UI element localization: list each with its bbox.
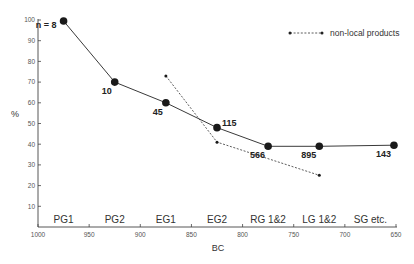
period-label: EG1: [156, 214, 176, 225]
legend-dot-icon: [289, 32, 292, 35]
data-point: [164, 74, 167, 77]
data-point-label: 895: [301, 150, 316, 160]
data-point: [315, 142, 323, 150]
y-tick-label: 20: [28, 182, 36, 189]
legend-dot-icon: [321, 32, 324, 35]
y-tick-label: 30: [28, 161, 36, 168]
series-all-products: n = 81045115566895143: [36, 17, 398, 160]
data-point: [162, 99, 170, 107]
legend: non-local products: [289, 28, 400, 38]
data-point-label: 45: [153, 107, 163, 117]
dashed-series-line: [166, 76, 319, 175]
x-tick-label: 850: [186, 231, 197, 238]
period-label: EG2: [207, 214, 227, 225]
data-point: [60, 17, 68, 25]
y-tick-label: 60: [28, 99, 36, 106]
data-point: [216, 141, 219, 144]
x-axis-title: BC: [212, 243, 225, 253]
line-chart: 1020304050607080901001000950900850800750…: [0, 0, 414, 264]
y-tick-label: 80: [28, 58, 36, 65]
data-point-label: 143: [376, 149, 391, 159]
axes: 1020304050607080901001000950900850800750…: [24, 16, 402, 238]
series: n = 81045115566895143: [36, 17, 398, 177]
data-point-label: n = 8: [36, 20, 57, 30]
y-tick-label: 90: [28, 37, 36, 44]
period-label: LG 1&2: [302, 214, 336, 225]
x-tick-label: 1000: [31, 231, 46, 238]
period-label: PG1: [54, 214, 74, 225]
x-tick-label: 700: [339, 231, 350, 238]
y-axis-title: %: [11, 109, 19, 119]
x-tick-label: 650: [391, 231, 402, 238]
x-tick-label: 950: [84, 231, 95, 238]
y-tick-label: 100: [24, 16, 35, 23]
period-label: PG2: [105, 214, 125, 225]
period-label: SG etc.: [354, 214, 387, 225]
x-tick-label: 750: [288, 231, 299, 238]
data-point: [318, 174, 321, 177]
y-tick-label: 40: [28, 141, 36, 148]
data-point-label: 115: [222, 118, 237, 128]
data-point: [264, 142, 272, 150]
y-tick-label: 70: [28, 78, 36, 85]
y-tick-label: 50: [28, 120, 36, 127]
data-point-label: 10: [102, 86, 112, 96]
data-point: [390, 141, 398, 149]
y-tick-label: 10: [28, 203, 36, 210]
data-point: [111, 78, 119, 86]
x-tick-label: 800: [237, 231, 248, 238]
series-non-local-products: [164, 74, 320, 176]
x-tick-label: 900: [135, 231, 146, 238]
data-point: [213, 124, 221, 132]
legend-label: non-local products: [330, 28, 399, 38]
chart-container: 1020304050607080901001000950900850800750…: [0, 0, 414, 264]
period-label: RG 1&2: [250, 214, 286, 225]
